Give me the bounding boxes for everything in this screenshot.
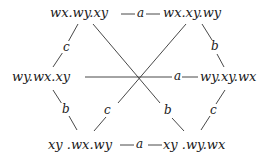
edge-c-mr-br-a (216, 90, 225, 104)
node-bottom-right: xy .wy.wx (163, 138, 225, 151)
edge-c-diag-a (118, 24, 186, 103)
node-top-right: wx.xy.wy (163, 6, 221, 19)
edge-b-diag-a (93, 24, 160, 103)
edge-label-diag-b: b (163, 104, 173, 116)
edge-label-mid-a: a (173, 70, 182, 82)
edge-c-mr-br-b (201, 116, 210, 130)
edge-b-tr-mr-a (202, 24, 212, 40)
edge-label-tr-mr-b: b (210, 40, 220, 52)
edge-label-tl-ml-c: c (62, 41, 71, 53)
node-top-left: wx.wy.xy (50, 6, 108, 19)
edge-label-top-a: a (136, 7, 145, 19)
edge-label-diag-c: c (103, 104, 112, 116)
edge-label-bottom-a: a (135, 138, 144, 150)
edge-b-ml-bl-a (53, 90, 62, 104)
edge-label-ml-bl-b: b (61, 103, 71, 115)
edge-c-diag-b (94, 117, 106, 131)
edge-label-mr-br-c: c (209, 104, 218, 116)
edge-b-diag-b (172, 118, 184, 131)
node-bottom-left: xy .wx.wy (48, 138, 112, 151)
node-mid-left: wy.wx.xy (12, 70, 70, 83)
edge-b-tr-mr-b (217, 54, 224, 67)
edge-b-ml-bl-b (69, 116, 77, 130)
edge-c-tl-ml-b (53, 52, 63, 67)
node-mid-right: wy.xy.wx (200, 70, 256, 83)
